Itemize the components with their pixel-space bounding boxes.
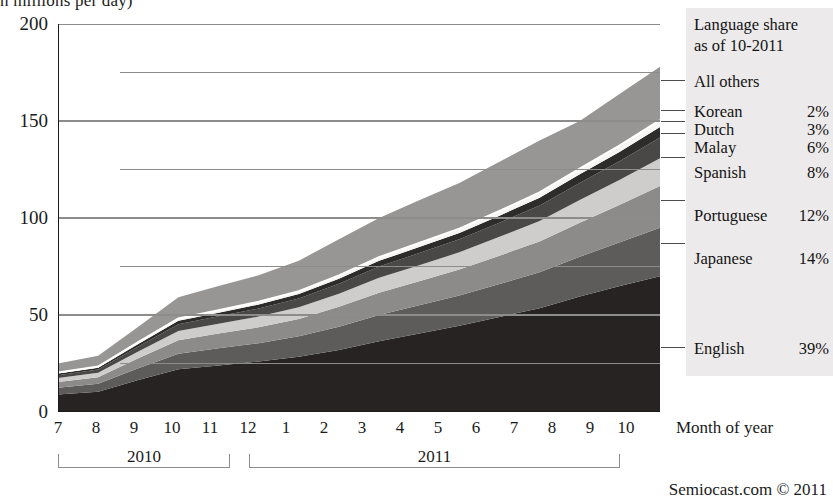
x-tick-label-6: 1	[273, 418, 299, 438]
legend-leader-japanese	[661, 243, 685, 244]
legend-label: Japanese	[694, 249, 753, 269]
legend-pct: 6%	[807, 138, 829, 158]
bracket-bar	[58, 467, 230, 468]
legend-pct: 8%	[807, 163, 829, 183]
legend-label: All others	[694, 72, 760, 92]
legend-item-all-others[interactable]: All others	[694, 72, 833, 91]
x-tick-label-10: 5	[425, 418, 451, 438]
x-tick-label-11: 6	[463, 418, 489, 438]
legend-item-malay[interactable]: Malay 6%	[694, 138, 833, 157]
year-label-2010: 2010	[58, 447, 230, 467]
legend-label: Dutch	[694, 120, 734, 140]
stacked-area-plot	[58, 24, 660, 412]
legend-pct: 2%	[807, 102, 829, 122]
y-tick-label-50: 50	[0, 304, 48, 326]
x-tick-label-13: 8	[539, 418, 565, 438]
year-label-2011: 2011	[249, 447, 620, 467]
legend-item-japanese[interactable]: Japanese 14%	[694, 249, 833, 268]
legend-leader-dutch	[661, 121, 685, 122]
legend-leader-malay	[661, 133, 685, 134]
x-axis-title: Month of year	[676, 418, 773, 438]
legend-label: Malay	[694, 138, 736, 158]
legend-leader-spanish	[661, 157, 685, 158]
year-bracket-2010: 2010	[58, 446, 230, 468]
chart-title: n millions per day)	[0, 0, 133, 11]
legend-pct: 39%	[799, 339, 829, 359]
y-tick-label-200: 200	[0, 13, 48, 35]
y-tick-label-100: 100	[0, 207, 48, 229]
legend-leader-korean	[661, 110, 685, 111]
legend-item-english[interactable]: English 39%	[694, 339, 833, 358]
x-tick-label-8: 3	[349, 418, 375, 438]
y-tick-label-150: 150	[0, 110, 48, 132]
x-tick-label-7: 2	[311, 418, 337, 438]
plot-area	[58, 24, 660, 412]
legend-pct: 14%	[799, 249, 829, 269]
x-tick-label-14: 9	[577, 418, 603, 438]
x-tick-label-2: 9	[121, 418, 147, 438]
x-tick-label-15: 10	[613, 418, 639, 438]
year-bracket-2011: 2011	[249, 446, 620, 468]
legend-title-line1: Language share	[694, 14, 832, 35]
x-tick-label-12: 7	[501, 418, 527, 438]
x-tick-label-5: 12	[235, 418, 261, 438]
legend-title: Language share as of 10-2011	[694, 14, 832, 56]
credit-text: Semiocast.com © 2011	[669, 480, 827, 500]
legend-leader-english	[661, 347, 685, 348]
x-tick-label-4: 11	[197, 418, 223, 438]
legend-label: Portuguese	[694, 206, 767, 226]
legend-item-dutch[interactable]: Dutch 3%	[694, 120, 833, 139]
legend-item-spanish[interactable]: Spanish 8%	[694, 163, 833, 182]
legend-item-portuguese[interactable]: Portuguese 12%	[694, 206, 833, 225]
legend-label: Spanish	[694, 163, 746, 183]
bracket-bar	[249, 467, 620, 468]
legend-panel: Language share as of 10-2011 All others …	[686, 8, 833, 376]
legend-pct: 12%	[799, 206, 829, 226]
x-tick-label-3: 10	[159, 418, 185, 438]
y-tick-label-0: 0	[0, 401, 48, 423]
legend-title-line2: as of 10-2011	[694, 35, 832, 56]
legend-label: Korean	[694, 102, 743, 122]
legend-item-korean[interactable]: Korean 2%	[694, 102, 833, 121]
legend-leader-all-others	[661, 80, 685, 81]
legend-leader-portuguese	[661, 200, 685, 201]
legend-pct: 3%	[807, 120, 829, 140]
x-tick-label-1: 8	[83, 418, 109, 438]
x-tick-label-0: 7	[45, 418, 71, 438]
chart-figure: n millions per day) 200 150 100 50 0 7 8…	[0, 0, 833, 501]
x-tick-label-9: 4	[387, 418, 413, 438]
legend-label: English	[694, 339, 744, 359]
